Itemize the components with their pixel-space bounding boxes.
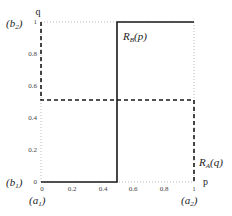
y-tick-0.4: 0.4 (28, 114, 37, 122)
b2-label: (b2) (6, 17, 23, 31)
y-tick-0.8: 0.8 (28, 50, 37, 58)
y-tick-1: 1 (34, 18, 38, 26)
x-ticks: 0 0.2 0.4 0.6 0.8 1 (40, 185, 196, 193)
x-tick-0.4: 0.4 (99, 185, 108, 193)
b1-label: (b1) (6, 176, 23, 190)
rb-label: RB(p) (122, 30, 147, 44)
y-tick-0: 0 (34, 178, 38, 186)
x-tick-0: 0 (40, 185, 44, 193)
y-tick-0.2: 0.2 (28, 146, 37, 154)
rb-curve (41, 22, 194, 182)
best-response-chart: 0 0.2 0.4 0.6 0.8 1 0 0.2 0.4 0.6 0.8 1 … (0, 0, 232, 216)
x-tick-0.2: 0.2 (68, 185, 77, 193)
y-axis-label: q (36, 6, 41, 17)
a2-label: (a2) (181, 194, 198, 208)
x-tick-0.6: 0.6 (129, 185, 138, 193)
x-tick-0.8: 0.8 (160, 185, 169, 193)
x-tick-1: 1 (192, 185, 196, 193)
ra-label: RA(q) (198, 156, 223, 170)
a1-label: (a1) (29, 194, 46, 208)
y-ticks: 0 0.2 0.4 0.6 0.8 1 (28, 18, 37, 186)
x-axis-label: p (203, 176, 208, 187)
y-tick-0.6: 0.6 (28, 82, 37, 90)
